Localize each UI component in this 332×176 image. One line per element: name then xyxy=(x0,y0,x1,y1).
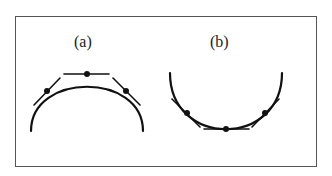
point-top xyxy=(84,71,90,77)
panel-b-diagram xyxy=(170,73,282,132)
point-left xyxy=(44,88,50,94)
point-right xyxy=(262,110,268,116)
point-bottom xyxy=(223,126,229,132)
point-right xyxy=(123,88,129,94)
diagram-canvas xyxy=(0,0,332,176)
point-left xyxy=(184,110,190,116)
cup-curve xyxy=(170,73,282,129)
panel-a-diagram xyxy=(31,71,143,131)
